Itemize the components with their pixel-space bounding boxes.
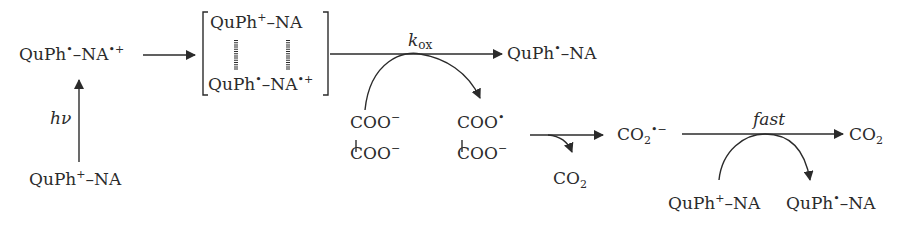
excited-radical-species: QuPh•–NA•+	[19, 46, 124, 63]
oxalate-curve-arrow	[365, 53, 480, 110]
fast-step-label: fast	[753, 111, 785, 128]
oxalate-radical-bottom: COO−	[457, 145, 507, 162]
photoexcitation-label: hν	[50, 110, 71, 127]
complex-top-species: QuPh+–NA	[210, 14, 302, 31]
reductant-product: QuPh•–NA	[786, 195, 875, 212]
oxalate-bottom: COO−	[350, 145, 400, 162]
oxalate-top: COO−	[350, 114, 400, 131]
reductant-reactant: QuPh+–NA	[668, 195, 760, 212]
oxalate-radical-top: COO•	[457, 114, 504, 131]
reductant-curve-arrow	[719, 134, 810, 180]
ground-state-species: QuPh+–NA	[29, 171, 121, 188]
product-radical-species: QuPh•–NA	[507, 45, 596, 62]
co2-final: CO2	[849, 126, 883, 143]
rate-constant-label: kox	[408, 32, 432, 49]
co2-radical-anion: CO2•−	[617, 126, 667, 143]
bracket-right	[323, 12, 328, 95]
complex-bottom-species: QuPh•–NA•+	[208, 76, 313, 93]
reaction-scheme: QuPh•–NA•+ hν QuPh+–NA QuPh+–NA QuPh•–NA…	[0, 0, 913, 227]
co2-released: CO2	[553, 170, 587, 187]
co2-release-curve-arrow	[548, 135, 572, 152]
